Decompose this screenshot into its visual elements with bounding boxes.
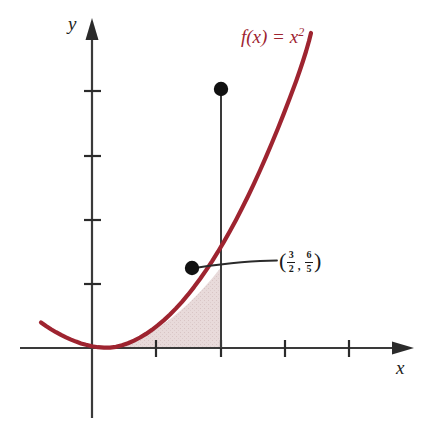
function-label-text: f(x) = x — [241, 26, 298, 47]
axis-label-y: y — [68, 14, 76, 33]
curve-endpoint-dot — [214, 82, 228, 96]
mean-value-point-dot — [185, 261, 199, 275]
plot-canvas — [0, 0, 438, 427]
axis-label-x: x — [396, 358, 404, 377]
parabola-curve — [41, 33, 311, 348]
x-axis-arrowhead — [392, 342, 414, 355]
area-under-parabola-figure: y x f(x) = x2 ( 3 2 , 6 5 ) — [0, 0, 438, 427]
fraction-x-denominator: 2 — [288, 264, 295, 275]
fraction-x: 3 2 — [287, 250, 295, 274]
function-label: f(x) = x2 — [241, 26, 304, 46]
fraction-y: 6 5 — [305, 250, 313, 274]
fraction-x-numerator: 3 — [288, 250, 295, 261]
paren-close: ) — [314, 250, 321, 272]
function-label-exponent: 2 — [298, 25, 304, 39]
paren-open: ( — [279, 250, 286, 272]
point-coordinate-label: ( 3 2 , 6 5 ) — [279, 250, 321, 274]
fraction-y-denominator: 5 — [306, 264, 313, 275]
fraction-y-numerator: 6 — [306, 250, 313, 261]
y-axis-arrowhead — [86, 18, 99, 40]
coordinate-comma: , — [297, 258, 301, 273]
